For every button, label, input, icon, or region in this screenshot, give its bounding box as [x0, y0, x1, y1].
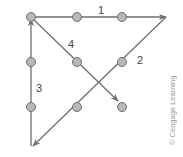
dot-3 — [118, 13, 127, 22]
copyright-credit: © Cengage Learning — [168, 76, 177, 145]
segment-label-1: 1 — [98, 4, 104, 16]
dot-1 — [27, 13, 36, 22]
line-segments — [31, 17, 166, 146]
nine-dot-diagram — [0, 0, 183, 157]
segment-label-2: 2 — [137, 54, 143, 66]
dot-2 — [73, 13, 82, 22]
dot-4 — [27, 58, 36, 67]
dot-6 — [118, 58, 127, 67]
segment-label-3: 3 — [36, 82, 42, 94]
dot-7 — [27, 103, 36, 112]
dot-8 — [73, 103, 82, 112]
dot-5 — [73, 58, 82, 67]
segment-label-4: 4 — [68, 38, 74, 50]
segment-2-arrow — [33, 17, 166, 146]
dot-9 — [118, 103, 127, 112]
